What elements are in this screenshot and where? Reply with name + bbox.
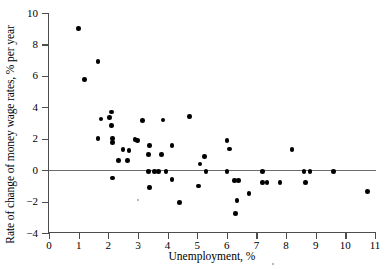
x-axis-tick-label: 4 <box>158 240 178 251</box>
x-axis-tick-label: 10 <box>335 240 355 251</box>
y-axis-tick <box>42 202 49 203</box>
data-point <box>127 148 132 153</box>
data-point <box>177 200 182 205</box>
data-point <box>331 169 336 174</box>
data-point <box>109 123 114 128</box>
y-axis-tick-label: 10 <box>12 8 38 19</box>
data-point <box>202 154 207 159</box>
data-point <box>121 147 126 152</box>
data-point <box>159 152 164 157</box>
print-speck <box>272 263 274 265</box>
y-axis-tick-label: −4 <box>12 228 38 239</box>
data-point <box>96 136 101 141</box>
x-axis-title: Unemployment, % <box>49 250 375 262</box>
data-point <box>170 143 175 148</box>
data-point <box>260 180 265 185</box>
data-point <box>135 138 140 143</box>
x-axis-tick-label: 8 <box>276 240 296 251</box>
x-axis-tick-label: 5 <box>187 240 207 251</box>
data-point <box>187 114 192 119</box>
data-point <box>99 117 104 122</box>
data-point <box>303 180 308 185</box>
y-axis-tick <box>42 44 49 45</box>
x-axis-tick-label: 7 <box>246 240 266 251</box>
data-point <box>196 184 201 189</box>
data-point <box>235 198 240 203</box>
y-axis-tick <box>42 107 49 108</box>
data-point <box>140 118 145 123</box>
data-point <box>116 158 121 163</box>
y-axis-tick <box>42 233 49 234</box>
y-axis-tick-label: 6 <box>12 70 38 81</box>
x-axis-tick-label: 11 <box>365 240 385 251</box>
y-axis-tick-label: −2 <box>12 196 38 207</box>
y-axis-tick-label: 0 <box>12 165 38 176</box>
x-axis-tick-label: 9 <box>306 240 326 251</box>
data-point <box>156 169 161 174</box>
data-point <box>290 147 295 152</box>
y-axis-tick <box>42 170 49 171</box>
x-axis-tick-label: 2 <box>98 240 118 251</box>
data-point <box>82 77 87 82</box>
data-point <box>147 185 152 190</box>
data-point <box>109 110 114 115</box>
data-point <box>308 169 313 174</box>
y-axis-tick-label: 2 <box>12 133 38 144</box>
data-point <box>146 169 151 174</box>
data-point <box>365 189 370 194</box>
x-axis-tick-label: 1 <box>69 240 89 251</box>
zero-line <box>49 170 376 171</box>
y-axis-tick <box>42 139 49 140</box>
data-point <box>110 140 115 145</box>
y-axis-tick-label: 8 <box>12 39 38 50</box>
data-point <box>170 177 175 182</box>
data-point <box>110 176 115 181</box>
print-speck <box>139 244 141 246</box>
x-axis-tick-label: 0 <box>39 240 59 251</box>
x-axis-tick-label: 6 <box>217 240 237 251</box>
data-point <box>146 152 151 157</box>
print-speck <box>137 199 139 201</box>
y-axis-tick <box>42 76 49 77</box>
y-axis-tick-label: 4 <box>12 102 38 113</box>
data-point <box>278 180 283 185</box>
data-point <box>247 191 252 196</box>
data-point <box>147 143 152 148</box>
scatter-chart-figure: Rate of change of money wage rates, % pe… <box>0 0 389 269</box>
data-point <box>233 211 238 216</box>
data-point <box>76 26 81 31</box>
data-point <box>161 118 166 123</box>
x-axis-spine <box>49 232 376 233</box>
data-point <box>204 169 209 174</box>
data-point <box>96 59 101 64</box>
data-point <box>265 180 270 185</box>
data-point <box>225 138 230 143</box>
y-axis-tick <box>42 13 49 14</box>
data-point <box>260 169 265 174</box>
data-point <box>125 158 130 163</box>
data-point <box>225 169 230 174</box>
data-point <box>302 169 307 174</box>
data-point <box>198 162 203 167</box>
data-point <box>236 178 241 183</box>
data-point <box>107 115 112 120</box>
data-point <box>227 147 232 152</box>
x-axis-tick-label: 3 <box>128 240 148 251</box>
data-point <box>164 169 169 174</box>
